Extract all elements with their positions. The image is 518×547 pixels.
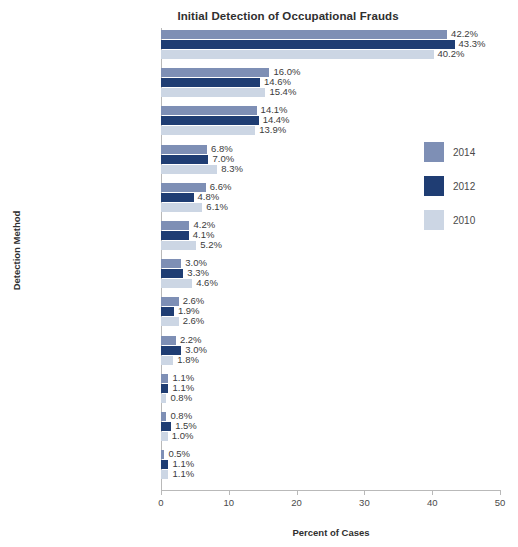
legend-swatch (424, 176, 444, 196)
bar-2012 (161, 384, 168, 393)
bar-row: 2.6% (161, 317, 500, 326)
chart-legend: 201420122010 (424, 142, 475, 244)
bar-2012 (161, 422, 171, 431)
bar-value-label: 4.6% (196, 277, 218, 288)
bar-row: 1.5% (161, 422, 500, 431)
bar-value-label: 8.3% (221, 163, 243, 174)
bar-2010 (161, 203, 202, 212)
bar-2014 (161, 336, 176, 345)
bar-group: IT Controls1.1%1.1%0.8% (161, 374, 500, 404)
bar-row: 42.2% (161, 30, 500, 39)
x-axis-tick (432, 490, 433, 495)
x-axis-line (161, 490, 501, 491)
bar-row: 16.0% (161, 68, 500, 77)
bar-2010 (161, 88, 265, 97)
bar-group: Other*0.5%1.1%1.1% (161, 450, 500, 480)
bar-2010 (161, 432, 168, 441)
bar-row: 0.5% (161, 450, 500, 459)
bar-2014 (161, 374, 168, 383)
bar-row: 0.8% (161, 412, 500, 421)
legend-item-2010[interactable]: 2010 (424, 210, 475, 230)
bar-value-label: 40.2% (438, 48, 465, 59)
bar-2014 (161, 259, 181, 268)
bar-value-label: 1.0% (172, 430, 194, 441)
bar-row: 1.1% (161, 460, 500, 469)
bar-row: 0.8% (161, 394, 500, 403)
bar-group: Tip42.2%43.3%40.2% (161, 30, 500, 60)
bar-row: 14.1% (161, 106, 500, 115)
bar-value-label: 1.1% (172, 468, 194, 479)
bar-row: 15.4% (161, 88, 500, 97)
bar-2014 (161, 297, 179, 306)
bar-2014 (161, 450, 164, 459)
x-axis-tick-label: 50 (495, 497, 506, 508)
x-axis-tick (229, 490, 230, 495)
bar-row: 4.6% (161, 279, 500, 288)
x-axis-tick (297, 490, 298, 495)
y-axis-title: Detection Method (11, 181, 22, 321)
bar-row: 14.6% (161, 78, 500, 87)
bar-value-label: 15.4% (269, 86, 296, 97)
bar-row: 1.1% (161, 470, 500, 479)
legend-item-2014[interactable]: 2014 (424, 142, 475, 162)
bar-value-label: 13.9% (259, 124, 286, 135)
bar-value-label: 1.8% (177, 354, 199, 365)
bar-2014 (161, 68, 269, 77)
bar-row: 1.0% (161, 432, 500, 441)
legend-swatch (424, 210, 444, 230)
bar-2012 (161, 155, 208, 164)
bar-2010 (161, 50, 434, 59)
bar-group: External Audit3.0%3.3%4.6% (161, 259, 500, 289)
bar-value-label: 0.8% (170, 392, 192, 403)
bar-row: 1.8% (161, 356, 500, 365)
bar-row: 13.9% (161, 126, 500, 135)
bar-2012 (161, 40, 455, 49)
bar-chart: Initial Detection of Occupational Frauds… (0, 0, 518, 547)
bar-2012 (161, 307, 174, 316)
legend-label: 2014 (453, 147, 475, 158)
bar-2010 (161, 470, 168, 479)
bar-2012 (161, 231, 189, 240)
bar-2014 (161, 106, 257, 115)
bar-2010 (161, 279, 192, 288)
bar-group: Surveillance/Monitoring2.6%1.9%2.6% (161, 297, 500, 327)
bar-2012 (161, 116, 259, 125)
bar-row: 1.9% (161, 307, 500, 316)
x-axis-tick-label: 0 (158, 497, 163, 508)
bar-2012 (161, 269, 183, 278)
bar-2010 (161, 241, 196, 250)
bar-2012 (161, 78, 260, 87)
x-axis-title: Percent of Cases (161, 527, 501, 538)
bar-group: Internal Audit14.1%14.4%13.9% (161, 106, 500, 136)
bar-2010 (161, 317, 179, 326)
bar-2010 (161, 356, 173, 365)
bar-2012 (161, 193, 194, 202)
bar-group: Notified by Law Enforcement2.2%3.0%1.8% (161, 336, 500, 366)
legend-label: 2010 (453, 215, 475, 226)
bar-2014 (161, 30, 447, 39)
bar-row: 3.0% (161, 346, 500, 355)
bar-row: 14.4% (161, 116, 500, 125)
bar-row: 40.2% (161, 50, 500, 59)
legend-swatch (424, 142, 444, 162)
bar-2014 (161, 145, 207, 154)
chart-title: Initial Detection of Occupational Frauds (0, 10, 518, 22)
bar-2010 (161, 126, 255, 135)
bar-row: 3.0% (161, 259, 500, 268)
bar-row: 1.1% (161, 384, 500, 393)
x-axis-tick (161, 490, 162, 495)
bar-row: 2.6% (161, 297, 500, 306)
plot-area: Tip42.2%43.3%40.2%Management Review16.0%… (161, 28, 500, 490)
x-axis-tick-label: 30 (359, 497, 370, 508)
legend-item-2012[interactable]: 2012 (424, 176, 475, 196)
x-axis-tick-label: 10 (224, 497, 235, 508)
bar-row: 1.1% (161, 374, 500, 383)
x-axis-tick-label: 20 (291, 497, 302, 508)
bar-2010 (161, 165, 217, 174)
bar-value-label: 6.1% (206, 201, 228, 212)
legend-label: 2012 (453, 181, 475, 192)
bar-2014 (161, 221, 189, 230)
bar-group: Confession0.8%1.5%1.0% (161, 412, 500, 442)
bar-2014 (161, 412, 166, 421)
x-axis-tick (500, 490, 501, 495)
